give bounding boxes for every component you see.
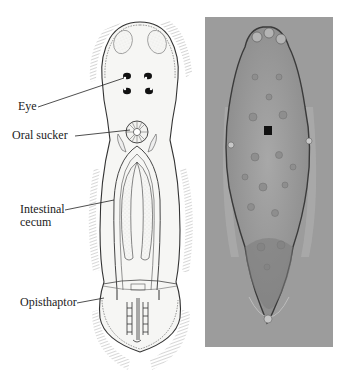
micrograph-svg [205, 17, 333, 347]
label-oral-sucker: Oral sucker [12, 129, 68, 142]
label-opisthaptor: Opisthaptor [20, 296, 77, 309]
worm-micrograph [205, 17, 333, 347]
oral-sucker [126, 121, 148, 143]
worm-drawing-svg [0, 0, 205, 378]
figure: Eye Oral sucker Intestinal cecum Opistha… [0, 0, 350, 378]
body-outline [100, 22, 181, 352]
eye-spot [264, 126, 272, 135]
label-intestinal-cecum-2: cecum [20, 216, 51, 229]
label-eye: Eye [18, 100, 37, 113]
worm-illustration: Eye Oral sucker Intestinal cecum Opistha… [0, 0, 205, 378]
